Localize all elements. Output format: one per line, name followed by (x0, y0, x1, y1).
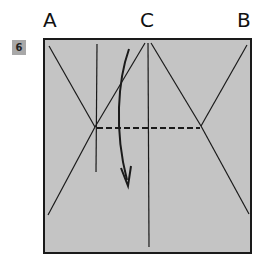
origami-diagram (0, 0, 269, 268)
paper-square (44, 39, 251, 253)
